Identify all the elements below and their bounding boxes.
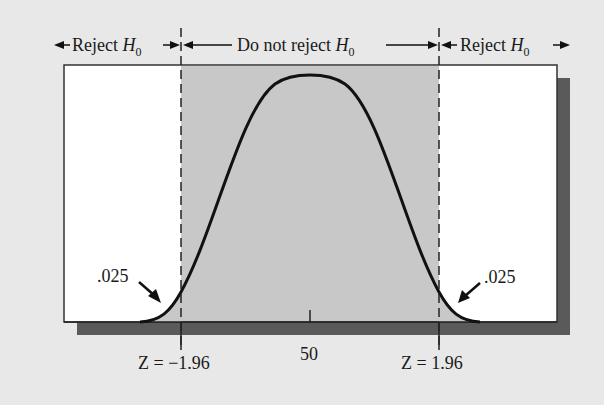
arrow-right-icon (428, 41, 438, 49)
critical-value-left-label: Z = −1.96 (138, 353, 210, 373)
svg-text:Do not reject H0: Do not reject H0 (237, 35, 354, 59)
critical-value-right-label: Z = 1.96 (401, 353, 463, 373)
arrow-right-icon (170, 41, 180, 49)
tail-area-right-label: .025 (484, 267, 516, 287)
hypothesis-test-diagram: Reject H0 Do not reject H0 Reject H0 .02… (0, 0, 604, 405)
region-label-reject-right: Reject H0 (441, 35, 570, 59)
region-label-reject-left: Reject H0 (54, 35, 180, 59)
arrow-right-icon (560, 41, 570, 49)
svg-text:Reject H0: Reject H0 (72, 35, 141, 59)
center-label: 50 (300, 344, 318, 364)
tail-area-left-label: .025 (97, 266, 129, 286)
region-label-do-not-reject: Do not reject H0 (183, 35, 438, 59)
svg-text:Reject H0: Reject H0 (460, 35, 529, 59)
